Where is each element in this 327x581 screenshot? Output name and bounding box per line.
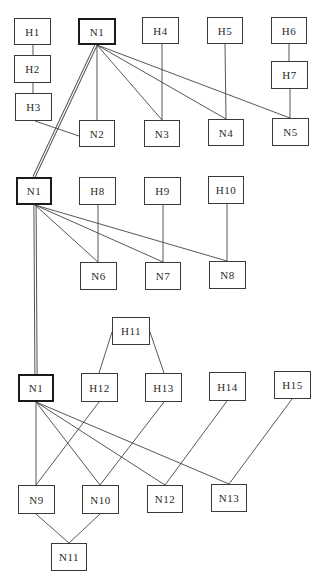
node-label: H13 [153,382,173,394]
node-label: N4 [219,127,233,139]
node-label: H7 [282,69,296,81]
node-label: N11 [59,551,79,563]
node-h11: H11 [112,317,150,345]
node-label: N1 [29,382,43,394]
node-n4: N4 [208,119,244,146]
node-label: N8 [220,269,234,281]
node-n13: N13 [211,484,247,512]
node-n1c: N1 [18,374,54,402]
edge-n1a-n4 [97,45,226,119]
node-n2: N2 [79,120,115,147]
node-h9: H9 [144,177,181,205]
node-label: N7 [156,270,170,282]
node-n1a: N1 [78,18,116,45]
node-label: N13 [219,492,239,504]
edge-h11-h12 [99,332,112,373]
node-h12: H12 [81,373,118,402]
edge-h13-n10 [100,402,164,485]
node-h13: H13 [145,373,182,402]
node-h4: H4 [142,17,179,44]
node-label: H15 [282,379,302,391]
edge-n1a-n3 [97,45,162,120]
node-label: H1 [25,26,39,38]
node-label: H12 [89,382,109,394]
node-n7: N7 [145,262,181,290]
node-n1b: N1 [16,177,52,205]
edge-h15-n13 [229,399,292,484]
node-label: N10 [90,494,110,506]
edge-n1a-n5 [97,45,290,118]
node-label: N6 [91,270,105,282]
node-n11: N11 [51,543,87,571]
node-h8: H8 [79,177,116,205]
edge-h14-n12 [165,401,227,485]
edge-n10-n11 [69,514,100,543]
node-n10: N10 [82,485,119,514]
node-label: N1 [27,185,41,197]
edge-n1c-n12 [36,402,165,485]
node-label: H8 [90,185,104,197]
edge-n1b-n6 [35,205,98,262]
node-n8: N8 [209,261,246,289]
node-label: H6 [282,25,296,37]
node-h6: H6 [271,17,307,44]
edge-n9-n11 [36,514,69,543]
edge-h3-n2 [35,121,79,136]
node-label: H2 [25,63,39,75]
edge-n1b-n7 [35,205,163,262]
node-n3: N3 [144,120,180,147]
node-label: H11 [121,325,141,337]
node-h1: H1 [14,18,51,45]
node-n6: N6 [80,262,117,290]
node-label: H9 [155,185,169,197]
node-h14: H14 [209,372,246,401]
node-label: N5 [283,126,297,138]
node-label: H5 [218,25,232,37]
node-n9: N9 [18,485,55,514]
node-label: N1 [90,26,104,38]
node-h5: H5 [207,17,243,44]
edge-h11-h13 [150,332,164,373]
node-h15: H15 [274,371,311,399]
node-label: N2 [90,128,104,140]
node-n12: N12 [147,485,183,513]
node-label: H3 [26,101,40,113]
graph-diagram: H1H2H3N1H4H5H6H7N2N3N4N5N1H8H9H10N6N7N8H… [0,0,327,581]
node-label: H14 [217,381,237,393]
node-label: N3 [155,128,169,140]
edge-n1b-n8 [35,205,227,261]
node-label: N12 [155,493,175,505]
node-h2: H2 [14,55,51,83]
node-h7: H7 [271,61,308,89]
edge-h5-n4 [225,44,226,119]
node-label: N9 [29,494,43,506]
node-h3: H3 [15,93,52,121]
node-n5: N5 [272,118,309,146]
node-label: H10 [216,184,236,196]
node-h10: H10 [208,176,244,204]
node-label: H4 [153,25,167,37]
